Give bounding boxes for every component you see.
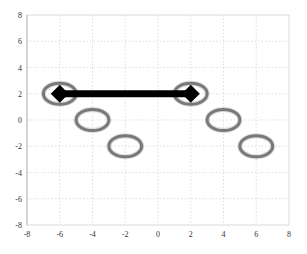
y-tick-label: -4	[15, 169, 22, 178]
y-tick-label: 0	[18, 116, 22, 125]
arrow-head-right-diamond-icon	[182, 85, 200, 103]
grid-lines	[27, 15, 289, 225]
y-tick-label: 4	[18, 64, 22, 73]
x-tick-label: -2	[122, 230, 129, 239]
y-tick-label: -2	[15, 142, 22, 151]
y-tick-label: 8	[18, 11, 22, 20]
y-axis-tick-labels: 86420-2-4-6-8	[15, 11, 22, 230]
x-tick-label: -8	[24, 230, 31, 239]
y-tick-label: -6	[15, 195, 22, 204]
x-tick-label: 6	[254, 230, 258, 239]
x-tick-label: -6	[56, 230, 63, 239]
y-tick-label: 6	[18, 37, 22, 46]
x-tick-label: 8	[287, 230, 291, 239]
arrow-head-left-diamond-icon	[51, 85, 69, 103]
x-tick-label: 4	[222, 230, 226, 239]
x-tick-label: 0	[156, 230, 160, 239]
y-tick-label: -8	[15, 221, 22, 230]
x-axis-tick-labels: -8-6-4-202468	[24, 230, 291, 239]
chart: -8-6-4-202468 86420-2-4-6-8	[0, 0, 307, 254]
x-tick-label: -4	[89, 230, 96, 239]
y-tick-label: 2	[18, 90, 22, 99]
x-tick-label: 2	[189, 230, 193, 239]
